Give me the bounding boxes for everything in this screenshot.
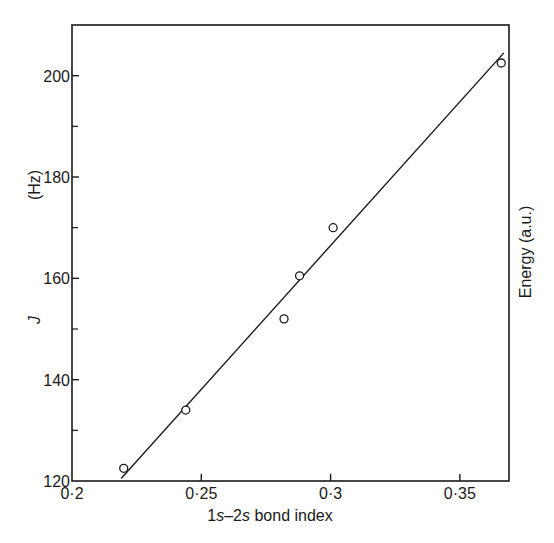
- data-point: [182, 406, 190, 414]
- y-axis-ticks: 120140160180200: [43, 68, 79, 490]
- data-point: [120, 464, 128, 472]
- fit-line-path: [121, 53, 504, 479]
- x-tick-label: 0·35: [444, 485, 476, 502]
- y-tick-label: 180: [43, 169, 70, 186]
- regression-line: [121, 53, 504, 479]
- plot-frame: [72, 25, 509, 481]
- x-tick-label: 0·25: [185, 485, 217, 502]
- y2-axis-title: Energy (a.u.): [517, 206, 534, 298]
- data-point: [280, 315, 288, 323]
- x-axis-ticks: 0·20·250·30·35: [60, 474, 476, 502]
- y-tick-label: 160: [43, 270, 70, 287]
- data-point: [296, 272, 304, 280]
- x-title-part: –2: [224, 507, 242, 524]
- plot-border: [72, 25, 509, 481]
- x-title-part-italic: s: [242, 507, 250, 524]
- data-point: [497, 59, 505, 67]
- y-axis-unit: (Hz): [26, 170, 43, 200]
- x-title-part: 1: [207, 507, 216, 524]
- x-title-part-italic: s: [216, 507, 224, 524]
- y-tick-label: 120: [43, 473, 70, 490]
- x-title-part: bond index: [250, 507, 333, 524]
- data-point: [329, 224, 337, 232]
- x-tick-label: 0·3: [319, 485, 342, 502]
- chart: 0·20·250·30·35 120140160180200 1s–2s bon…: [0, 0, 554, 543]
- y-tick-label: 140: [43, 372, 70, 389]
- x-axis-title: 1s–2s bond index: [207, 507, 332, 524]
- y-axis-symbol: J: [26, 315, 43, 325]
- y-tick-label: 200: [43, 68, 70, 85]
